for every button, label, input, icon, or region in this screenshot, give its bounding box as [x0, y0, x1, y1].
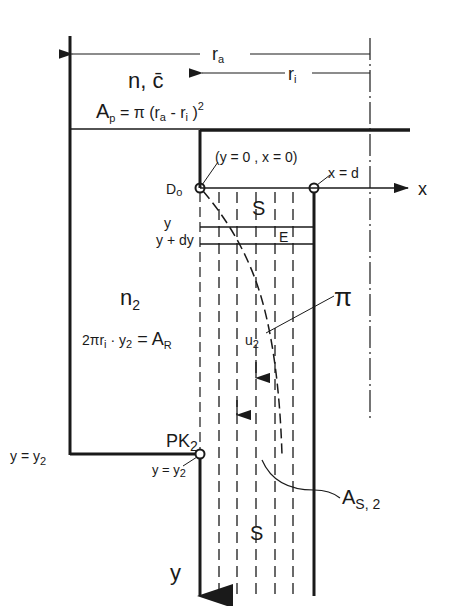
as2-leader-curve: [262, 460, 340, 498]
pk2-y-eq-label: y = y2: [152, 462, 186, 479]
flow-curve: [203, 191, 282, 455]
area-ap-formula: Ap = π (ra - ri )2: [96, 100, 204, 124]
origin-leader-line: [202, 162, 218, 185]
y-axis-label: y: [170, 560, 181, 585]
ra-label: ra: [212, 44, 225, 65]
origin-label: Do: [166, 181, 182, 198]
x-axis-label: x: [418, 179, 427, 199]
u2-label: u2: [245, 332, 259, 350]
pi-leader-line: [266, 296, 334, 333]
diagram-canvas: ra ri n, c̄ Ap = π (ra - ri )2 x Do (y =…: [0, 0, 455, 606]
left-y-y2-label: y = y2: [10, 448, 46, 467]
upper-s-label: S: [252, 197, 265, 219]
pk2-label: PK2: [166, 431, 198, 454]
ri-label: ri: [288, 64, 296, 85]
cell-e-label: E: [279, 229, 288, 245]
x-d-label: x = d: [328, 165, 359, 181]
pi-label: π: [334, 282, 352, 312]
region-n-c-label: n, c̄: [128, 68, 163, 93]
as2-label: AS, 2: [342, 486, 380, 512]
pk2-leader-line: [183, 457, 197, 466]
row-y-dy-label: y + dy: [156, 232, 194, 248]
region-n2-label: n2: [120, 285, 140, 313]
area-ar-formula: 2πri · y2 = AR: [82, 329, 172, 351]
origin-coords-label: (y = 0 , x = 0): [215, 149, 297, 165]
row-y-label: y: [164, 215, 171, 231]
lower-s-label: S: [250, 522, 263, 544]
